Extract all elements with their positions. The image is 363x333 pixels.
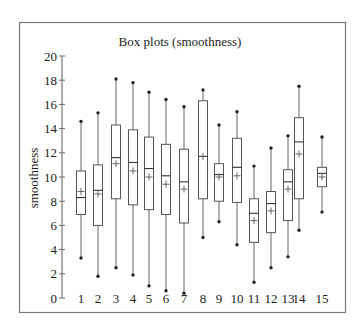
x-tick-label: 4 bbox=[130, 291, 137, 306]
x-tick-label: 8 bbox=[200, 291, 207, 306]
iqr-box bbox=[162, 144, 171, 214]
x-tick-label: 9 bbox=[216, 291, 223, 306]
iqr-box bbox=[129, 130, 138, 205]
iqr-box bbox=[295, 118, 304, 199]
x-tick-label: 3 bbox=[113, 291, 120, 306]
min-point bbox=[252, 281, 255, 284]
min-point bbox=[286, 255, 289, 258]
y-tick-label: 16 bbox=[44, 97, 58, 112]
box-15 bbox=[318, 135, 327, 213]
chart-title: Box plots (smoothness) bbox=[119, 34, 242, 49]
box-8 bbox=[199, 88, 208, 239]
max-point bbox=[297, 85, 300, 88]
y-tick-label: 10 bbox=[44, 170, 57, 185]
y-tick-label: 2 bbox=[51, 266, 58, 281]
box-14 bbox=[295, 85, 304, 232]
x-axis-labels: 123456789101112131415 bbox=[78, 291, 329, 306]
min-point bbox=[79, 256, 82, 259]
iqr-box bbox=[215, 164, 224, 202]
min-point bbox=[147, 284, 150, 287]
min-point bbox=[96, 275, 99, 278]
box-2 bbox=[94, 111, 103, 278]
max-point bbox=[286, 134, 289, 137]
box-7 bbox=[180, 105, 189, 295]
box-5 bbox=[145, 91, 154, 288]
min-point bbox=[297, 229, 300, 232]
x-tick-label: 10 bbox=[231, 291, 244, 306]
box-1 bbox=[77, 120, 86, 260]
box-plot-chart: Box plots (smoothness) smoothness 024681… bbox=[0, 0, 363, 333]
max-point bbox=[252, 164, 255, 167]
min-point bbox=[201, 236, 204, 239]
max-point bbox=[235, 110, 238, 113]
y-tick-label: 18 bbox=[44, 73, 57, 88]
box-4 bbox=[129, 81, 138, 277]
max-point bbox=[79, 120, 82, 123]
iqr-box bbox=[199, 101, 208, 199]
box-12 bbox=[267, 146, 276, 269]
max-point bbox=[217, 123, 220, 126]
iqr-box bbox=[145, 137, 154, 210]
y-tick-label: 6 bbox=[51, 218, 58, 233]
x-tick-label: 1 bbox=[78, 291, 85, 306]
iqr-box bbox=[284, 170, 293, 221]
min-point bbox=[235, 243, 238, 246]
min-point bbox=[131, 273, 134, 276]
box-9 bbox=[215, 123, 224, 223]
box-13 bbox=[284, 134, 293, 258]
y-tick-label: 0 bbox=[51, 291, 58, 306]
x-tick-label: 2 bbox=[95, 291, 102, 306]
max-point bbox=[131, 81, 134, 84]
x-tick-label: 5 bbox=[146, 291, 153, 306]
max-point bbox=[147, 91, 150, 94]
max-point bbox=[164, 98, 167, 101]
max-point bbox=[96, 111, 99, 114]
max-point bbox=[114, 77, 117, 80]
max-point bbox=[269, 146, 272, 149]
y-tick-label: 4 bbox=[51, 242, 58, 257]
x-tick-label: 6 bbox=[163, 291, 170, 306]
y-tick-label: 12 bbox=[44, 145, 57, 160]
y-axis-label: smoothness bbox=[26, 148, 41, 209]
min-point bbox=[269, 266, 272, 269]
max-point bbox=[182, 105, 185, 108]
x-tick-label: 12 bbox=[265, 291, 278, 306]
box-6 bbox=[162, 98, 171, 293]
max-point bbox=[320, 135, 323, 138]
min-point bbox=[217, 220, 220, 223]
x-tick-label: 11 bbox=[248, 291, 261, 306]
min-point bbox=[114, 266, 117, 269]
min-point bbox=[320, 210, 323, 213]
x-tick-label: 7 bbox=[181, 291, 188, 306]
x-tick-label: 14 bbox=[293, 291, 307, 306]
y-tick-label: 20 bbox=[44, 49, 57, 64]
max-point bbox=[201, 88, 204, 91]
box-series bbox=[77, 77, 327, 295]
box-3 bbox=[112, 77, 121, 269]
iqr-box bbox=[233, 138, 242, 202]
box-11 bbox=[250, 164, 259, 284]
y-tick-label: 14 bbox=[44, 121, 58, 136]
x-tick-label: 15 bbox=[316, 291, 329, 306]
box-10 bbox=[233, 110, 242, 246]
y-axis: 02468101214161820 bbox=[44, 49, 65, 306]
y-tick-label: 8 bbox=[51, 194, 58, 209]
